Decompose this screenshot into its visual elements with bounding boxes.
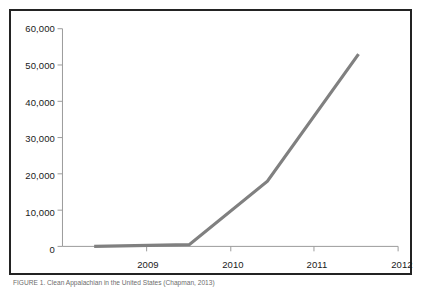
line-chart-plot: [11, 11, 410, 273]
x-tick-label-2010: 2010: [203, 260, 263, 270]
y-tick-label-0: 0: [11, 245, 55, 255]
data-series-line: [94, 54, 358, 246]
chart-frame: 60,000 50,000 40,000 30,000 20,000 10,00…: [9, 9, 412, 275]
y-tick-label-40000: 40,000: [11, 98, 55, 108]
x-tick-label-2012: 2012: [372, 260, 424, 270]
y-tick-label-20000: 20,000: [11, 171, 55, 181]
figure-caption: FIGURE 1. Clean Appalachian in the Unite…: [13, 279, 413, 287]
y-tick-label-30000: 30,000: [11, 134, 55, 144]
y-tick-label-50000: 50,000: [11, 61, 55, 71]
x-tick-label-2011: 2011: [287, 260, 347, 270]
x-tick-label-2009: 2009: [118, 260, 178, 270]
y-tick-label-60000: 60,000: [11, 24, 55, 34]
figure-container: 60,000 50,000 40,000 30,000 20,000 10,00…: [0, 0, 424, 287]
y-tick-label-10000: 10,000: [11, 208, 55, 218]
